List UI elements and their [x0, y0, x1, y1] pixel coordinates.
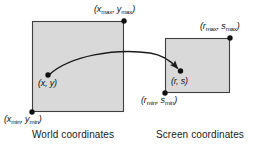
r-min-sub: min — [147, 99, 156, 106]
world-max-corner-dot — [121, 18, 126, 23]
y-max-sub: max — [121, 8, 132, 15]
screen-point-dot — [178, 68, 183, 73]
r-max-sub: max — [206, 25, 217, 32]
screen-point-label: (r, s) — [171, 77, 188, 86]
world-point-label: (x, y) — [38, 79, 57, 88]
world-coordinates-box — [33, 22, 124, 112]
s-max-sub: max — [226, 25, 237, 32]
world-min-corner-label: (xmin, ymin) — [4, 115, 42, 124]
world-coordinates-caption: World coordinates — [32, 130, 114, 140]
paren-close: ) — [39, 114, 42, 124]
s-min-sub: min — [165, 99, 174, 106]
screen-min-corner-label: (rmin, smin) — [141, 96, 177, 105]
world-min-corner-dot — [29, 109, 34, 114]
x-max-sub: max — [101, 8, 112, 15]
paren-close: ) — [174, 95, 177, 105]
x-min-sub: min — [11, 118, 20, 125]
y-min-sub: min — [29, 118, 38, 125]
paren-close: ) — [132, 4, 135, 14]
screen-max-corner-label: (rmax, smax) — [200, 22, 240, 31]
world-max-corner-label: (xmax, ymax) — [94, 5, 135, 14]
screen-max-corner-dot — [227, 35, 232, 40]
world-point-dot — [45, 72, 50, 77]
s-max-base: s — [221, 21, 225, 31]
screen-coordinates-caption: Screen coordinates — [156, 130, 244, 140]
coordinate-mapping-figure: (xmax, ymax) (xmin, ymin) (x, y) (rmax, … — [0, 0, 270, 148]
paren-close: ) — [237, 21, 240, 31]
